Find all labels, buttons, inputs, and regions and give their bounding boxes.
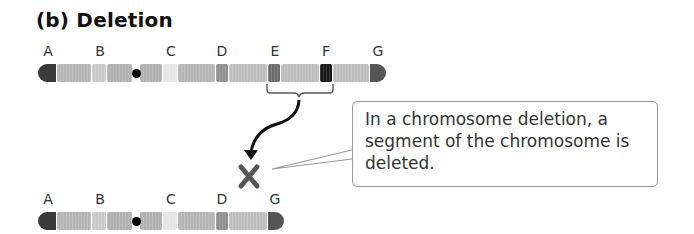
callout-box: In a chromosome deletion, a segment of t… <box>352 101 658 187</box>
callout-text: In a chromosome deletion, a segment of t… <box>365 109 629 173</box>
callout-pointer <box>272 150 352 169</box>
deletion-x-icon <box>241 167 257 186</box>
deleted-region-brace <box>267 84 333 97</box>
deletion-arrow <box>244 100 299 160</box>
